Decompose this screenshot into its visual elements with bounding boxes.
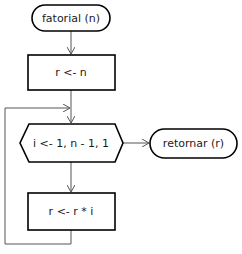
node-end-terminator: retornar (r) bbox=[150, 129, 237, 158]
flowchart-canvas: fatorial (n) r <- n i <- 1, n - 1, 1 r <… bbox=[0, 0, 242, 254]
node-end-label: retornar (r) bbox=[163, 137, 224, 150]
node-loop-label: i <- 1, n - 1, 1 bbox=[33, 137, 109, 150]
node-body-label: r <- r * i bbox=[49, 205, 94, 218]
node-init-process: r <- n bbox=[28, 55, 115, 90]
node-loop-hexagon: i <- 1, n - 1, 1 bbox=[20, 124, 123, 162]
node-start-terminator: fatorial (n) bbox=[32, 5, 110, 31]
node-body-process: r <- r * i bbox=[28, 193, 115, 230]
node-start-label: fatorial (n) bbox=[42, 12, 100, 25]
node-init-label: r <- n bbox=[55, 66, 87, 79]
